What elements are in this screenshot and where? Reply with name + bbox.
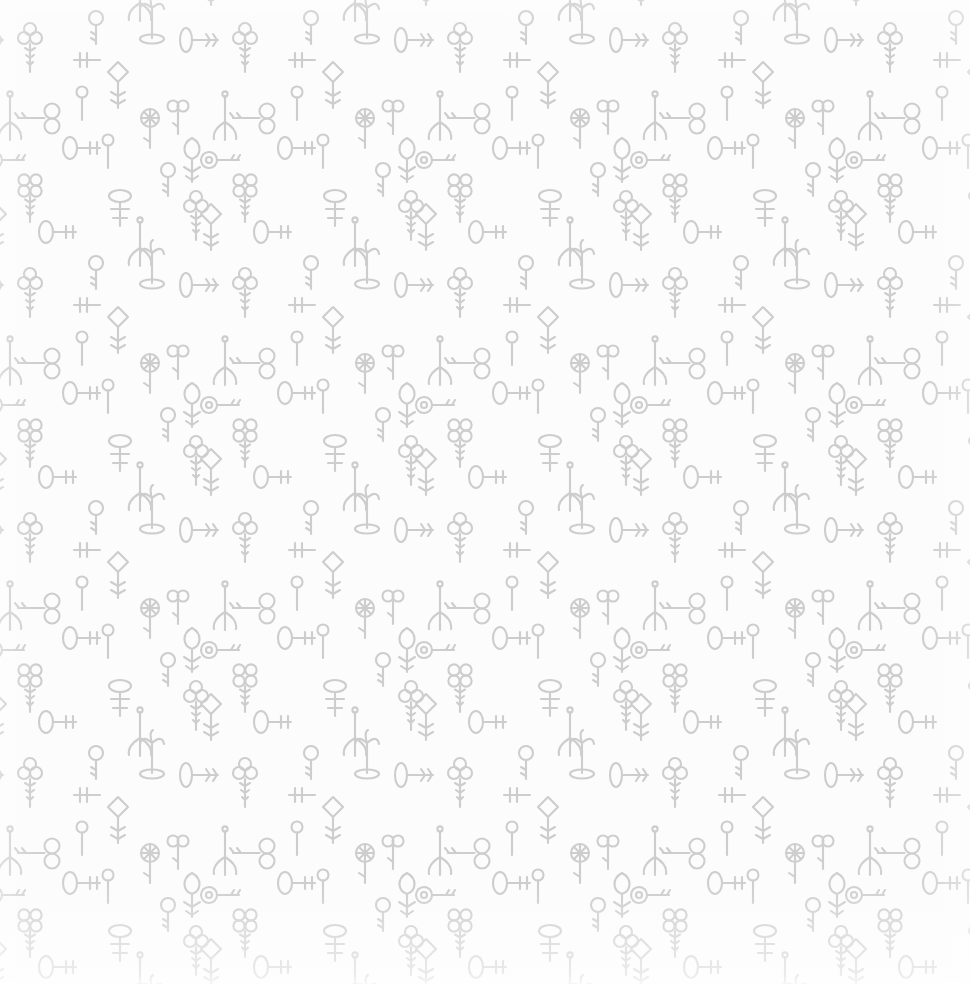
key-pattern-tile-layer — [0, 0, 970, 984]
pattern-canvas — [0, 0, 970, 984]
